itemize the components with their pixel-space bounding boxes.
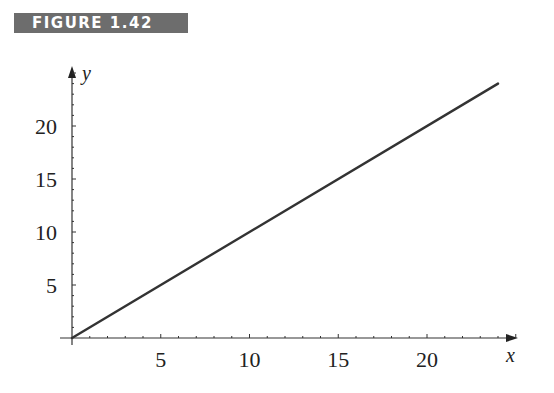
y-tick-label: 10 [35,220,57,245]
y-tick-label: 5 [46,273,57,298]
y-axis-arrow-icon [68,66,76,78]
x-tick-label: 5 [155,347,166,372]
x-axis-label: x [505,344,515,366]
x-tick-label: 20 [416,347,438,372]
x-tick-label: 15 [327,347,349,372]
line-chart: 51015205101520 x y [0,0,554,393]
x-tick-label: 10 [239,347,261,372]
y-tick-label: 15 [35,167,57,192]
y-axis-label: y [80,62,91,85]
y-tick-label: 20 [35,114,57,139]
data-line [72,84,498,338]
